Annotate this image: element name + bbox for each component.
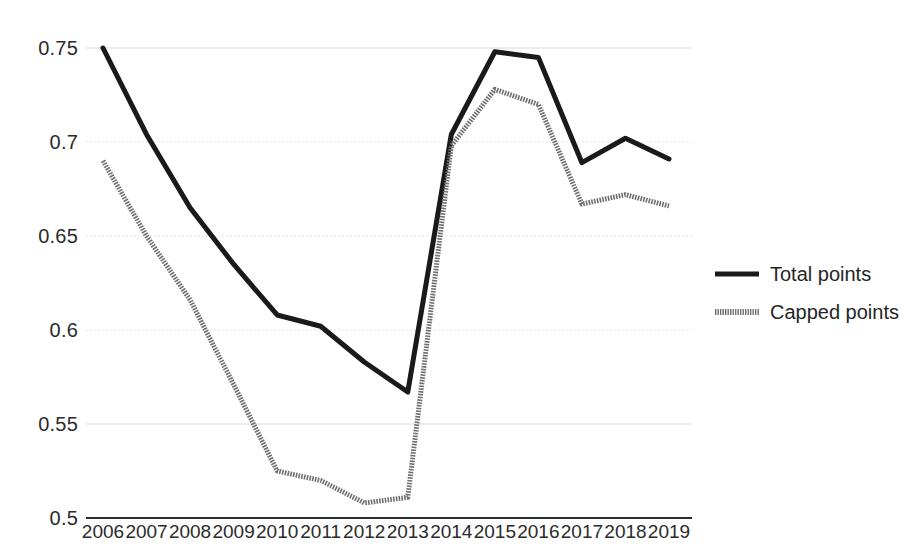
legend-swatch-total-points xyxy=(714,268,760,280)
x-tick-label: 2008 xyxy=(169,521,211,543)
x-tick-label: 2018 xyxy=(604,521,646,543)
x-tick-label: 2016 xyxy=(517,521,559,543)
series-lines xyxy=(103,48,669,503)
legend-item-capped-points[interactable]: Capped points xyxy=(714,293,914,331)
legend-label-capped-points: Capped points xyxy=(770,301,899,324)
legend-item-total-points[interactable]: Total points xyxy=(714,255,914,293)
series-line-capped-points xyxy=(103,89,669,503)
x-tick-label: 2013 xyxy=(387,521,429,543)
x-tick-label: 2010 xyxy=(256,521,298,543)
legend-label-total-points: Total points xyxy=(770,263,871,286)
gridlines xyxy=(86,48,692,424)
x-tick-label: 2009 xyxy=(212,521,254,543)
x-axis: 2006200720082009201020112012201320142015… xyxy=(0,521,921,551)
legend-swatch-capped-points xyxy=(714,306,760,318)
chart-legend: Total points Capped points xyxy=(714,255,914,331)
x-tick-label: 2007 xyxy=(125,521,167,543)
x-tick-label: 2019 xyxy=(648,521,690,543)
x-tick-label: 2011 xyxy=(300,521,341,543)
x-tick-label: 2006 xyxy=(82,521,124,543)
series-line-total-points xyxy=(103,48,669,392)
x-tick-label: 2014 xyxy=(430,521,472,543)
x-tick-label: 2012 xyxy=(343,521,385,543)
x-tick-label: 2017 xyxy=(561,521,603,543)
line-chart: 0.750.70.650.60.550.5 200620072008200920… xyxy=(0,0,921,552)
x-tick-label: 2015 xyxy=(474,521,516,543)
